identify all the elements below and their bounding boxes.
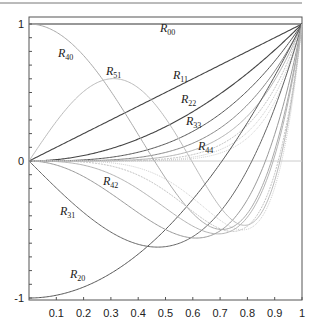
x-tick-label: 0.2 xyxy=(76,307,91,319)
y-tick-label: -1 xyxy=(14,292,24,304)
x-tick-label: 0.1 xyxy=(49,307,64,319)
zernike-radial-chart: 10-1 0.10.20.30.40.50.60.70.80.91 R00R11… xyxy=(0,0,317,336)
label-r20: R20 xyxy=(69,267,85,283)
y-tick-label: 0 xyxy=(18,155,24,167)
label-r31: R31 xyxy=(59,204,75,220)
label-r44: R44 xyxy=(197,139,213,155)
label-r22: R22 xyxy=(180,92,196,108)
x-tick-label: 0.8 xyxy=(240,307,255,319)
x-tick-label: 0.9 xyxy=(267,307,282,319)
y-tick-label: 1 xyxy=(18,18,24,30)
x-tick-label: 0.5 xyxy=(158,307,173,319)
label-r33: R33 xyxy=(185,114,201,130)
x-tick-label: 0.6 xyxy=(185,307,200,319)
x-tick-label: 0.3 xyxy=(103,307,118,319)
label-r11: R11 xyxy=(172,68,188,84)
label-r51: R51 xyxy=(105,64,121,80)
x-tick-label: 0.4 xyxy=(131,307,146,319)
x-tick-label: 0.7 xyxy=(212,307,227,319)
label-r40: R40 xyxy=(57,46,73,62)
x-tick-label: 1 xyxy=(299,307,305,319)
